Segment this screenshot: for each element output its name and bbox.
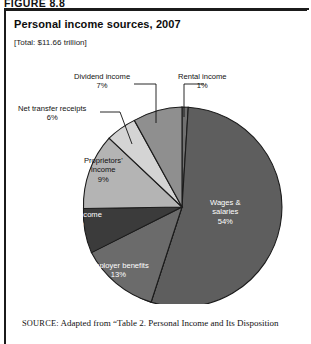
slice-label-wages-name2: salaries [212,207,238,216]
slice-label-transfer-name: Net transfer receipts [18,104,86,113]
slice-label-interest-name: Interest income [50,210,102,219]
figure-page: FIGURE 8.8 Personal income sources, 2007… [0,0,311,344]
slice-label-proprietors-name2: income [91,165,115,174]
slice-label-rental-name: Rental income [178,72,227,81]
slice-label-employer-name: Employer benefits [88,261,149,270]
slice-label-wages-value: 54% [218,217,233,226]
pie-chart-svg [8,52,306,304]
slice-label-proprietors-name: Proprietors' [84,156,123,165]
slice-label-wages: Wages & salaries 54% [210,198,241,226]
slice-label-transfer: Net transfer receipts 6% [18,104,86,123]
slice-label-proprietors: Proprietors' income 9% [84,156,123,184]
slice-label-employer: Employer benefits 13% [88,261,149,280]
page-title: Personal income sources, 2007 [14,18,181,30]
slice-label-interest: Interest income 10% [50,210,102,229]
slice-label-dividend-value: 7% [97,81,108,90]
slice-label-employer-value: 13% [111,270,126,279]
source-note-text: Adapted from “Table 2. Personal Income a… [61,318,279,328]
source-note-prefix: SOURCE: [22,319,59,328]
slice-label-wages-name: Wages & [210,198,241,207]
slice-label-dividend-name: Dividend income [74,72,130,81]
slice-label-dividend: Dividend income 7% [74,72,130,91]
frame-left-rule-lower [4,305,6,344]
panel-subtitle: [Total: $11.66 trillion] [14,38,87,47]
pie-chart [8,52,306,304]
slice-label-transfer-value: 6% [47,113,58,122]
source-note: SOURCE: Adapted from “Table 2. Personal … [22,318,310,329]
slice-label-rental-value: 1% [197,81,208,90]
slice-label-rental: Rental income 1% [178,72,227,91]
slice-label-proprietors-value: 9% [98,175,109,184]
slice-label-interest-value: 10% [68,219,83,228]
